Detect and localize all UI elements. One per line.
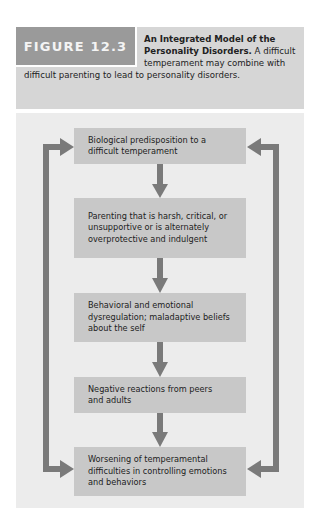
box-text: Parenting that is harsh, critical, or un… — [88, 211, 238, 246]
box-biological-predisposition: Biological predisposition to a difficult… — [74, 128, 246, 164]
left-feedback-loop-icon — [43, 138, 74, 478]
box-text: Biological predisposition to a difficult… — [88, 135, 218, 158]
box-text: Negative reactions from peers and adults — [88, 384, 218, 407]
flow-arrows — [0, 0, 321, 518]
arrow-down-icon — [152, 164, 168, 198]
arrow-down-icon — [152, 413, 168, 447]
right-feedback-loop-icon — [247, 138, 279, 478]
box-dysregulation: Behavioral and emotional dysregulation; … — [74, 293, 246, 342]
arrow-down-icon — [152, 258, 168, 293]
box-parenting: Parenting that is harsh, critical, or un… — [74, 198, 246, 258]
arrow-down-icon — [152, 342, 168, 377]
box-text: Worsening of temperamental difficulties … — [88, 454, 238, 489]
box-negative-reactions: Negative reactions from peers and adults — [74, 377, 246, 413]
box-worsening: Worsening of temperamental difficulties … — [74, 447, 246, 496]
box-text: Behavioral and emotional dysregulation; … — [88, 300, 238, 335]
